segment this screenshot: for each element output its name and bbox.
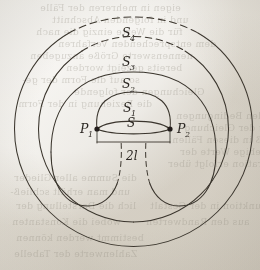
label-S4: S 4 (122, 25, 135, 43)
diagram-svg: S 4 S 3 S 2 S 1 S P 1 (0, 0, 260, 270)
label-S2: S 2 (122, 76, 135, 94)
svg-text:S: S (127, 116, 135, 130)
svg-text:4: 4 (129, 34, 135, 43)
svg-text:1: 1 (88, 130, 93, 139)
label-separation-2l: 2l (125, 149, 138, 163)
label-S: S (127, 116, 135, 130)
curve-S4 (15, 17, 253, 247)
label-P1: P 1 (79, 121, 93, 139)
label-P2: P 2 (176, 121, 190, 139)
figure-container: eigen in mehreren der Fälle und in folge… (0, 0, 260, 270)
svg-text:3: 3 (130, 63, 135, 72)
separation-dimension-line (97, 131, 170, 143)
svg-text:2: 2 (129, 85, 135, 94)
svg-text:2l: 2l (125, 149, 138, 163)
label-S3: S 3 (122, 54, 135, 72)
focus-point-left (94, 126, 99, 131)
focus-point-right (167, 126, 172, 131)
svg-text:2: 2 (184, 130, 190, 139)
